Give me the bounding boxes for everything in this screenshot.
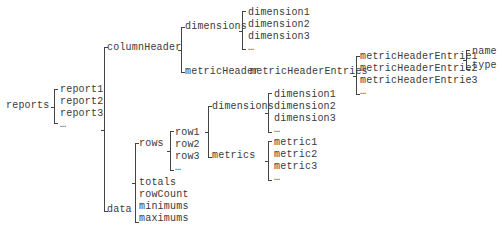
node-metrics: metrics [212,150,255,162]
node-metric-ellipsis: … [274,172,280,184]
node-row-dimensions: dimensions [212,101,274,113]
node-columnHeader: columnHeader [107,42,181,54]
node-minimums: minimums [139,201,189,213]
bracket-rows [170,131,174,171]
node-report1: report1 [60,84,103,96]
node-rows: rows [139,138,164,150]
bracket-row-dimensions [268,93,272,133]
node-data: data [107,204,132,216]
node-metricHeaderEntrie1: metricHeaderEntrie1 [360,51,478,63]
node-row1: row1 [175,127,200,139]
node-report-ellipsis: … [60,119,66,131]
bracket-entry-fields [466,50,470,70]
node-row-dimension1: dimension1 [274,89,336,101]
node-row2: row2 [175,139,200,151]
node-type: type [472,60,497,72]
node-metricHeader: metricHeader [185,66,259,78]
bracket-row-metrics [268,141,272,181]
node-metricHeaderEntrie-ellipsis: … [360,86,366,98]
node-name: name [472,46,497,58]
node-dimension1: dimension1 [248,7,310,19]
node-row-dimension3: dimension3 [274,113,336,125]
node-report3: report3 [60,108,103,120]
node-row-dimension2: dimension2 [274,101,336,113]
node-metricHeaderEntrie2: metricHeaderEntrie2 [360,63,478,75]
bracket-reports [54,89,58,124]
node-rowCount: rowCount [139,189,189,201]
bracket-report-children [104,47,108,212]
node-metric2: metric2 [274,149,317,161]
node-metric3: metric3 [274,161,317,173]
node-dimension2: dimension2 [248,19,310,31]
node-dimension3: dimension3 [248,31,310,43]
node-dimensions: dimensions [185,21,247,33]
node-totals: totals [139,177,176,189]
node-row-ellipsis: … [175,162,181,174]
bracket-column-dimensions [242,11,246,50]
node-reports: reports [6,100,49,112]
node-metricHeaderEntrie3: metricHeaderEntrie3 [360,75,478,87]
node-dimension-ellipsis: … [248,42,254,54]
node-row-dimension-ellipsis: … [274,124,280,136]
node-metricHeaderEntries: metricHeaderEntries [250,66,368,78]
node-maximums: maximums [139,213,189,225]
node-report2: report2 [60,96,103,108]
node-metric1: metric1 [274,137,317,149]
